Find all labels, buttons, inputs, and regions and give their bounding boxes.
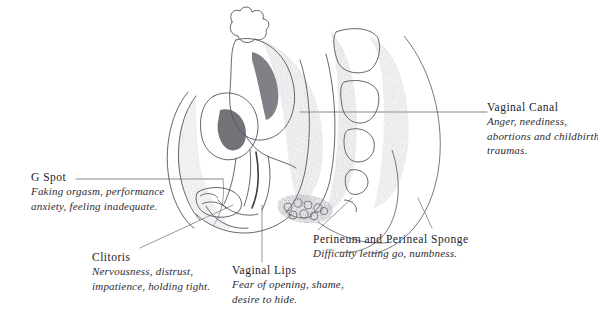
- label-desc-clitoris: Nervousness, distrust, impatience, holdi…: [92, 264, 210, 293]
- label-title-clitoris: Clitoris: [92, 250, 210, 264]
- label-desc-line: Nervousness, distrust,: [92, 264, 210, 279]
- label-title-vaginal-canal: Vaginal Canal: [487, 100, 598, 114]
- label-desc-line: Difficulty letting go, numbness.: [313, 246, 468, 261]
- label-desc-line: abortions and childbirth: [487, 129, 598, 144]
- vaginal-canal-posterior: [262, 156, 270, 210]
- leader-line-perineum-2: [418, 198, 432, 228]
- label-desc-line: Fear of opening, shame,: [232, 277, 344, 292]
- label-title-perineum: Perineum and Perineal Sponge: [313, 232, 468, 246]
- label-desc-g-spot: Faking orgasm, performance anxiety, feel…: [31, 184, 164, 213]
- coccyx: [344, 200, 356, 212]
- ovary-fimbriae: [230, 7, 269, 43]
- label-g-spot: G Spot Faking orgasm, performance anxiet…: [31, 170, 164, 213]
- label-vaginal-canal: Vaginal Canal Anger, neediness, abortion…: [487, 100, 598, 158]
- label-desc-line: desire to hide.: [232, 292, 344, 307]
- label-desc-vaginal-lips: Fear of opening, shame, desire to hide.: [232, 277, 344, 306]
- figure-page: G Spot Faking orgasm, performance anxiet…: [0, 0, 598, 329]
- label-desc-line: Anger, neediness,: [487, 114, 598, 129]
- urethra: [224, 158, 236, 204]
- label-clitoris: Clitoris Nervousness, distrust, impatien…: [92, 250, 210, 293]
- label-perineum: Perineum and Perineal Sponge Difficulty …: [313, 232, 468, 261]
- bladder-cavity: [218, 109, 246, 150]
- label-desc-line: Faking orgasm, performance: [31, 184, 164, 199]
- label-title-vaginal-lips: Vaginal Lips: [232, 263, 344, 277]
- label-vaginal-lips: Vaginal Lips Fear of opening, shame, des…: [232, 263, 344, 306]
- label-desc-line: impatience, holding tight.: [92, 279, 210, 294]
- label-desc-line: traumas.: [487, 143, 598, 158]
- label-desc-line: anxiety, feeling inadequate.: [31, 199, 164, 214]
- vaginal-canal-anterior: [244, 150, 251, 206]
- vaginal-lumen: [252, 152, 258, 208]
- anatomy-body: [167, 7, 440, 254]
- label-title-g-spot: G Spot: [31, 170, 164, 184]
- label-desc-perineum: Difficulty letting go, numbness.: [313, 246, 468, 261]
- label-desc-vaginal-canal: Anger, neediness, abortions and childbir…: [487, 114, 598, 158]
